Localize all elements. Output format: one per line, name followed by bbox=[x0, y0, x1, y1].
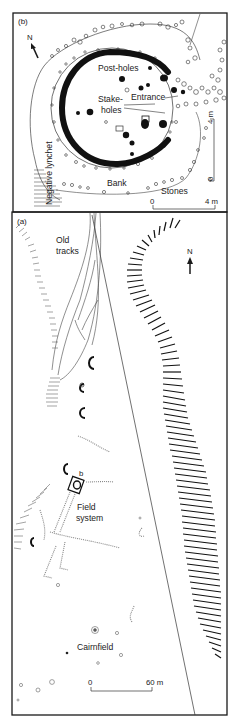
svg-text:4 m: 4 m bbox=[206, 111, 215, 124]
panel-a-label: (a) bbox=[17, 217, 27, 226]
label-stones: Stones bbox=[161, 186, 188, 196]
archaeological-site-figure: (b) N bbox=[0, 0, 240, 726]
cairns bbox=[17, 517, 141, 701]
svg-text:60 m: 60 m bbox=[146, 678, 163, 687]
entrance-stones bbox=[176, 40, 226, 108]
scale-bar-b-horizontal: 0 4 m bbox=[150, 197, 218, 209]
svg-text:0: 0 bbox=[206, 176, 215, 181]
label-entrance: Entrance bbox=[131, 92, 166, 102]
north-label-a: N bbox=[187, 247, 193, 256]
label-post-holes: Post-holes bbox=[98, 63, 139, 73]
svg-text:4 m: 4 m bbox=[205, 197, 218, 206]
scale-bar-a: 0 60 m bbox=[88, 678, 163, 691]
field-system-walls bbox=[40, 436, 144, 622]
label-cairnfield: Cairnfield bbox=[77, 642, 114, 652]
straight-boundary-line bbox=[92, 215, 195, 715]
svg-text:0: 0 bbox=[150, 197, 155, 206]
panel-a-frame bbox=[12, 212, 227, 715]
label-bank: Bank bbox=[107, 178, 127, 188]
inset-b-marker: b bbox=[68, 469, 84, 494]
north-arrow-icon: N bbox=[187, 247, 193, 274]
label-stake-holes-1: Stake- bbox=[98, 94, 123, 104]
right-scarp-hachures bbox=[127, 218, 221, 658]
label-old-tracks-1: Old bbox=[56, 235, 70, 245]
svg-text:0: 0 bbox=[88, 678, 93, 687]
panel-b-label: (b) bbox=[18, 17, 28, 26]
panel-a-site-map: (a) N bbox=[12, 212, 227, 715]
label-field-system-2: system bbox=[76, 513, 103, 523]
label-stake-holes-2: holes bbox=[101, 105, 122, 115]
label-negative-lynchet: Negative lynchet bbox=[44, 141, 54, 205]
north-arrow-icon: N bbox=[27, 33, 38, 58]
label-field-system-1: Field bbox=[77, 502, 96, 512]
svg-text:b: b bbox=[79, 469, 84, 478]
label-old-tracks-2: tracks bbox=[56, 246, 79, 256]
panel-b-house-plan: (b) N bbox=[13, 13, 227, 212]
north-label-b: N bbox=[27, 33, 33, 42]
scale-bar-b-vertical: 0 4 m bbox=[206, 111, 215, 181]
left-scarp-hatching bbox=[14, 224, 60, 549]
